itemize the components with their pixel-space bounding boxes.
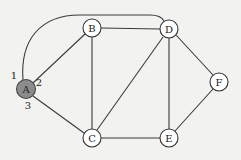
node-label-B: B	[88, 23, 95, 34]
node-C: C	[83, 129, 101, 147]
port-label-2: 2	[36, 77, 42, 88]
node-F: F	[210, 73, 228, 91]
edge-C-D	[97, 37, 163, 130]
node-label-A: A	[21, 84, 30, 95]
node-E: E	[160, 129, 178, 147]
graph-diagram: A B C D E F 1 2 3	[0, 0, 241, 160]
edge-A-C	[33, 96, 84, 133]
edge-E-F	[175, 89, 213, 131]
node-label-E: E	[165, 133, 172, 144]
node-label-F: F	[216, 77, 223, 88]
graph-svg: A B C D E F 1 2 3	[0, 0, 241, 160]
node-label-D: D	[165, 24, 173, 35]
node-D: D	[160, 20, 178, 38]
edge-D-F	[176, 35, 213, 75]
port-label-1: 1	[11, 70, 17, 81]
node-A: A	[17, 80, 36, 99]
edge-B-D	[101, 28, 160, 29]
edges	[23, 15, 213, 138]
node-B: B	[83, 19, 101, 37]
node-label-C: C	[88, 133, 96, 144]
port-label-3: 3	[25, 100, 31, 111]
